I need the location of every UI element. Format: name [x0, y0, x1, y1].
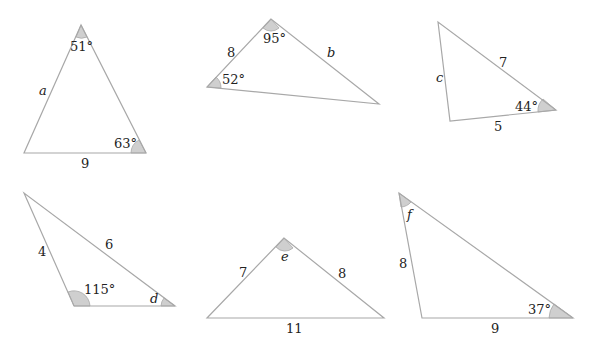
triangle-1: 51° 63° a 9 [24, 25, 146, 171]
side-label-bottom: 9 [491, 321, 499, 336]
side-label-hyp: 7 [499, 55, 507, 70]
triangle-outline [399, 193, 573, 318]
triangles-canvas: 51° 63° a 9 95° 52° 8 b 44° c 7 5 115° d… [0, 0, 592, 348]
angle-label-top: 51° [70, 39, 93, 54]
side-label-left: 8 [227, 45, 235, 60]
side-label-left: a [39, 83, 47, 98]
angle-label-top: e [281, 249, 289, 264]
side-label-right: b [327, 45, 335, 60]
triangle-outline [207, 19, 379, 104]
angle-label-left: 52° [222, 72, 245, 87]
side-label-hyp: 6 [105, 237, 113, 252]
side-label-bottom: 11 [286, 321, 303, 336]
side-label-left: 4 [38, 244, 46, 259]
side-label-left: c [436, 70, 444, 85]
side-label-right: 8 [338, 266, 346, 281]
angle-label-right: 37° [528, 302, 551, 317]
angle-label-top: f [406, 207, 414, 222]
side-label-bottom: 5 [494, 119, 502, 134]
angle-label-right: 63° [114, 136, 137, 151]
side-label-left: 8 [399, 256, 407, 271]
triangle-3: 44° c 7 5 [436, 22, 556, 134]
angle-label-right: d [150, 291, 158, 306]
triangle-6: f 37° 8 9 [399, 193, 573, 336]
triangle-2: 95° 52° 8 b [207, 19, 379, 104]
angle-label-bottom-left: 115° [84, 282, 115, 297]
triangle-4: 115° d 4 6 [24, 193, 175, 306]
angle-label-right: 44° [515, 99, 538, 114]
side-label-bottom: 9 [81, 156, 89, 171]
triangle-outline [207, 238, 384, 318]
angle-marker-left [207, 77, 221, 88]
triangle-diagram: 51° 63° a 9 95° 52° 8 b 44° c 7 5 115° d… [0, 0, 592, 348]
side-label-left: 7 [239, 265, 247, 280]
angle-label-top: 95° [263, 31, 286, 46]
triangle-5: e 7 8 11 [207, 238, 384, 336]
